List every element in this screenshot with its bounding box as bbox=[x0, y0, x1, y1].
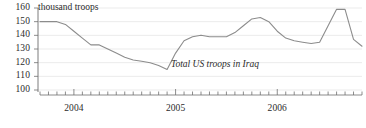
y-tick-label: 120 bbox=[4, 58, 30, 68]
series-annotation-label: Total US troops in Iraq bbox=[171, 59, 259, 70]
y-axis bbox=[34, 8, 38, 92]
x-tick-label: 2006 bbox=[257, 104, 297, 114]
y-tick-label: 150 bbox=[4, 17, 30, 27]
y-tick-label: 160 bbox=[4, 3, 30, 13]
y-tick-label: 100 bbox=[4, 85, 30, 95]
x-tick-label: 2005 bbox=[156, 104, 196, 114]
x-tick-label: 2004 bbox=[54, 104, 94, 114]
troop-level-line-chart: thousand troops Total US troops in Iraq … bbox=[0, 0, 366, 128]
gridlines bbox=[38, 8, 362, 90]
y-tick-label: 130 bbox=[4, 44, 30, 54]
y-tick-label: 140 bbox=[4, 30, 30, 40]
y-axis-unit-label: thousand troops bbox=[38, 2, 98, 13]
y-tick-label: 110 bbox=[4, 71, 30, 81]
